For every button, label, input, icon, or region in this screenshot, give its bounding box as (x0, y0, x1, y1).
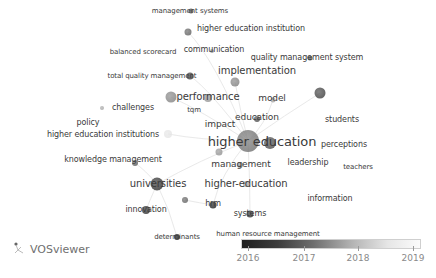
legend-tick (248, 246, 249, 251)
legend-tick (358, 246, 359, 251)
label-quality-management-system[interactable]: quality management system (251, 54, 363, 62)
node-unnamed-small-mid[interactable] (182, 197, 188, 203)
label-universities[interactable]: universities (130, 179, 187, 189)
label-systems[interactable]: systems (234, 210, 266, 218)
brand-name: VOSviewer (30, 243, 90, 256)
label-leadership[interactable]: leadership (288, 159, 329, 167)
vosviewer-logo-icon (12, 240, 26, 259)
label-balanced-scorecard[interactable]: balanced scorecard (110, 49, 177, 56)
label-model[interactable]: model (258, 94, 286, 103)
label-higher-education[interactable]: higher education (208, 135, 317, 148)
label-management[interactable]: management (211, 160, 270, 169)
label-students[interactable]: students (325, 116, 359, 124)
legend-tick-label: 2017 (293, 253, 316, 263)
node-performance[interactable] (166, 92, 177, 103)
label-education[interactable]: education (235, 113, 279, 122)
color-scale-legend (241, 239, 421, 249)
label-higher-education-institutions[interactable]: higher education institutions (47, 131, 159, 139)
label-innovation[interactable]: innovation (125, 206, 166, 214)
legend-tick (304, 246, 305, 251)
label-policy[interactable]: policy (77, 119, 100, 127)
label-higher-education-institution[interactable]: higher education institution (197, 25, 305, 33)
label-performance[interactable]: performance (177, 92, 240, 102)
legend-tick (413, 246, 414, 251)
node-unnamed-dark-right[interactable] (315, 88, 326, 99)
label-hrm[interactable]: hrm (205, 200, 221, 208)
node-higher-education-institution[interactable] (185, 29, 192, 36)
label-management-systems[interactable]: management systems (152, 8, 228, 15)
overlay-map[interactable]: higher educationmanagement systemshigher… (0, 0, 436, 278)
label-perceptions[interactable]: perceptions (321, 141, 367, 149)
node-challenges[interactable] (100, 106, 104, 110)
label-implementation[interactable]: implementation (218, 66, 296, 76)
label-information[interactable]: information (307, 195, 352, 203)
label-teachers[interactable]: teachers (343, 164, 373, 171)
label-total-quality-management[interactable]: total quality management (108, 73, 197, 80)
legend-tick-label: 2019 (402, 253, 425, 263)
node-implementation[interactable] (231, 78, 240, 87)
label-knowledge-management[interactable]: knowledge management (64, 156, 162, 164)
label-human-resource-management[interactable]: human resource management (216, 231, 320, 238)
vosviewer-brand: VOSviewer (12, 240, 90, 259)
label-higher-education-hyphen[interactable]: higher-education (204, 179, 287, 189)
node-higher-education-institutions[interactable] (164, 130, 172, 138)
node-higher-education-c[interactable] (216, 149, 223, 156)
label-tqm[interactable]: tqm (187, 107, 201, 114)
label-impact[interactable]: impact (205, 120, 235, 129)
legend-tick-label: 2018 (347, 253, 370, 263)
label-determinants[interactable]: determinants (154, 234, 200, 241)
legend-tick-label: 2016 (237, 253, 260, 263)
label-challenges[interactable]: challenges (112, 104, 154, 112)
label-communication[interactable]: communication (184, 46, 245, 54)
